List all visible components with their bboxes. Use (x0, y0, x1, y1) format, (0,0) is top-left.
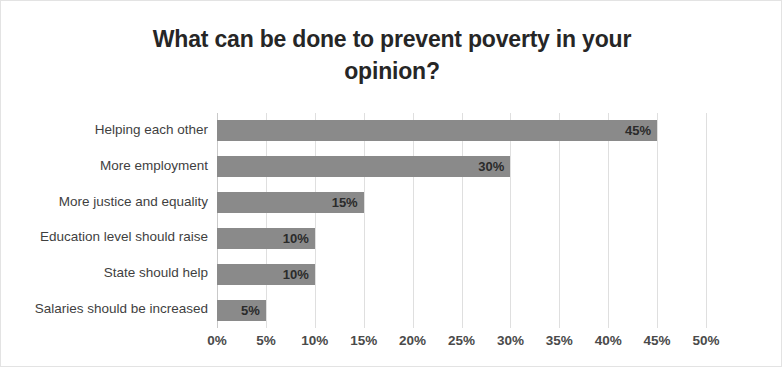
gridline (608, 113, 609, 328)
gridline (510, 113, 511, 328)
category-axis: Helping each otherMore employmentMore ju… (1, 113, 217, 328)
bar[interactable]: 45% (217, 120, 657, 141)
gridline (364, 113, 365, 328)
bar[interactable]: 10% (217, 228, 315, 249)
bar-value-label: 45% (625, 123, 651, 138)
plot-area: 45%30%15%10%10%5% (217, 113, 706, 328)
bar-value-label: 15% (332, 195, 358, 210)
bar[interactable]: 5% (217, 300, 266, 321)
gridline (706, 113, 707, 328)
gridline (657, 113, 658, 328)
x-tick-label: 50% (676, 333, 736, 348)
chart-title: What can be done to prevent poverty in y… (61, 23, 723, 87)
bar-row[interactable]: 30% (217, 156, 706, 177)
bar-row[interactable]: 5% (217, 300, 706, 321)
bar-value-label: 5% (241, 303, 260, 318)
chart-title-line-1: What can be done to prevent poverty in y… (61, 23, 723, 55)
gridline (266, 113, 267, 328)
bar-value-label: 30% (478, 159, 504, 174)
bar-value-label: 10% (283, 267, 309, 282)
gridline (413, 113, 414, 328)
bar-row[interactable]: 45% (217, 120, 706, 141)
category-label: More justice and equality (11, 194, 217, 209)
category-label: More employment (11, 158, 217, 173)
category-label: Helping each other (11, 122, 217, 137)
category-label: State should help (11, 265, 217, 280)
x-axis-tick-labels: 0%5%10%15%20%25%30%35%40%45%50% (217, 333, 706, 357)
bar[interactable]: 10% (217, 264, 315, 285)
gridline (315, 113, 316, 328)
bar-row[interactable]: 15% (217, 192, 706, 213)
chart-title-line-2: opinion? (61, 55, 723, 87)
bar-row[interactable]: 10% (217, 264, 706, 285)
category-label: Salaries should be increased (11, 301, 217, 316)
gridline (462, 113, 463, 328)
bar[interactable]: 15% (217, 192, 364, 213)
gridline (559, 113, 560, 328)
category-label: Education level should raise (11, 229, 217, 244)
bar-value-label: 10% (283, 231, 309, 246)
bar-row[interactable]: 10% (217, 228, 706, 249)
value-axis-line (217, 113, 218, 328)
bar-chart-figure: What can be done to prevent poverty in y… (0, 0, 782, 367)
bar[interactable]: 30% (217, 156, 510, 177)
